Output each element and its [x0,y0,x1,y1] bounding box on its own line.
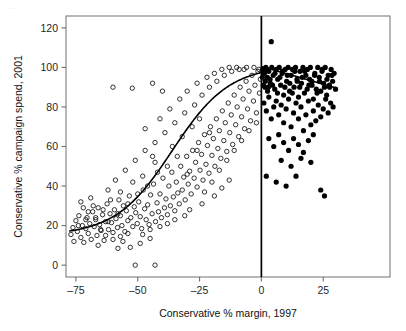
data-point-filled [279,102,284,107]
data-point-open [100,213,104,217]
data-point-open [153,160,157,164]
scatter-plot: –75–50–25025020406080100120Conservative … [0,0,406,331]
data-point-open [74,218,78,222]
data-point-open [144,217,148,221]
data-point-open [196,140,200,144]
data-point-open [145,203,149,207]
data-point-open [232,93,236,97]
data-point-open [165,221,169,225]
data-point-open [207,130,211,134]
data-point-open [185,172,189,176]
data-point-open [153,219,157,223]
data-point-open [131,180,135,184]
data-point-open [235,105,239,109]
data-point-open [173,121,177,125]
data-point-open [238,85,242,89]
data-point-filled [300,75,305,80]
data-point-open [207,85,211,89]
data-point-open [133,263,137,267]
data-point-open [151,182,155,186]
data-point-open [199,152,203,156]
data-point-filled [307,77,312,82]
data-point-open [236,134,240,138]
data-point-open [248,119,252,123]
data-point-open [161,176,165,180]
data-point-filled [288,164,293,169]
data-point-filled [318,187,323,192]
data-point-filled [313,118,318,123]
data-point-open [160,89,164,93]
data-point-filled [274,98,279,103]
data-point-filled [274,179,279,184]
data-point-filled [286,148,291,153]
data-point-filled [312,73,317,78]
data-point-filled [266,94,271,99]
data-point-filled [261,100,266,105]
data-point-filled [293,100,298,105]
data-point-open [150,81,154,85]
data-point-open [202,190,206,194]
data-point-filled [281,140,286,145]
data-point-filled [291,136,296,141]
x-tick-label: –50 [129,284,147,296]
data-point-open [232,148,236,152]
data-point-open [254,121,258,125]
data-point-open [227,178,231,182]
data-point-filled [314,91,319,96]
data-point-open [195,81,199,85]
data-point-open [148,236,152,240]
data-point-open [131,224,135,228]
data-point-open [197,117,201,121]
data-point-open [138,214,142,218]
data-point-open [212,71,216,75]
data-point-filled [301,150,306,155]
data-point-filled [279,158,284,163]
data-point-filled [298,156,303,161]
data-point-open [213,164,217,168]
figure-container: .. –75–50–25025020406080100120Conservati… [0,0,406,331]
data-point-open [195,185,199,189]
data-point-open [96,206,100,210]
data-point-open [175,154,179,158]
data-point-open [108,212,112,216]
data-point-open [183,198,187,202]
data-point-open [72,239,76,243]
data-point-open [132,205,136,209]
data-point-open [207,171,211,175]
data-point-open [220,67,224,71]
data-point-open [192,176,196,180]
data-point-filled [282,85,287,90]
data-point-open [163,130,167,134]
data-point-open [96,243,100,247]
data-point-filled [264,174,269,179]
data-point-open [242,127,246,131]
data-point-open [185,89,189,93]
data-point-open [168,204,172,208]
data-point-open [178,97,182,101]
data-point-filled [264,67,269,72]
data-point-open [71,225,75,229]
data-point-filled [303,112,308,117]
data-point-open [241,97,245,101]
data-point-filled [323,96,328,101]
data-point-open [222,138,226,142]
data-point-filled [280,69,285,74]
data-point-open [167,184,171,188]
data-point-open [217,168,221,172]
data-point-filled [308,122,313,127]
data-point-filled [326,110,331,115]
data-point-open [205,75,209,79]
data-point-filled [292,69,297,74]
data-point-open [111,230,115,234]
data-point-open [170,170,174,174]
data-point-open [103,233,107,237]
data-point-open [214,117,218,121]
data-point-filled [311,132,316,137]
data-point-open [216,146,220,150]
data-point-open [210,153,214,157]
data-point-filled [281,92,286,97]
data-point-open [253,83,257,87]
data-point-open [225,158,229,162]
data-point-open [135,221,139,225]
data-point-open [186,182,190,186]
